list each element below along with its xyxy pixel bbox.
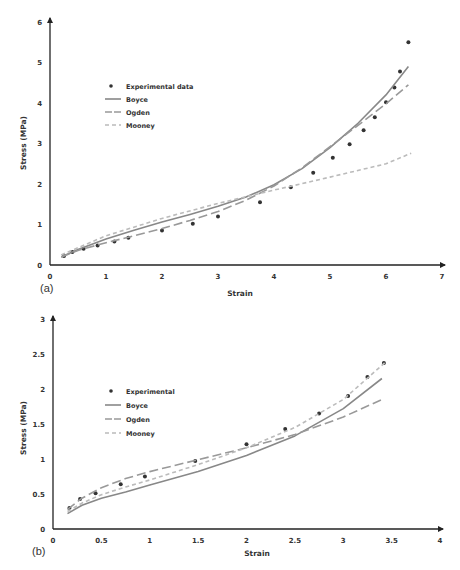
figure: 012345670123456StrainStress (MPa)(a)Expe… [0, 0, 460, 570]
data-point [311, 171, 315, 175]
x-tick-label: 4 [438, 537, 443, 545]
data-point [406, 40, 410, 44]
legend-marker-icon [109, 389, 113, 393]
data-point [143, 475, 147, 479]
y-tick-label: 5 [37, 59, 42, 67]
series-ogden [68, 400, 382, 510]
x-tick-label: 1 [147, 537, 152, 545]
data-point [191, 222, 195, 226]
y-tick-label: 3 [40, 316, 45, 324]
x-axis-label: Strain [227, 289, 253, 298]
legend-label: Mooney [126, 430, 155, 438]
x-tick-label: 2 [244, 537, 249, 545]
y-axis-label: Stress (MPa) [19, 401, 28, 455]
x-tick-label: 4 [272, 273, 277, 281]
data-point [216, 214, 220, 218]
legend-label: Ogden [126, 416, 150, 424]
data-point [258, 200, 262, 204]
x-tick-label: 1 [104, 273, 109, 281]
series-boyce [68, 379, 382, 514]
y-tick-label: 3 [37, 140, 42, 148]
x-tick-label: 0.5 [95, 537, 108, 545]
data-point [398, 69, 402, 73]
series-ogden [61, 85, 408, 257]
x-tick-label: 1.5 [192, 537, 205, 545]
chart-a: 012345670123456StrainStress (MPa)(a)Expe… [19, 18, 445, 298]
legend-label: Mooney [126, 122, 155, 130]
series-mooney [68, 361, 387, 512]
x-tick-label: 6 [384, 273, 389, 281]
legend-label: Experimental [126, 388, 175, 396]
data-point [362, 128, 366, 132]
x-tick-label: 0 [48, 273, 53, 281]
y-tick-label: 4 [37, 100, 42, 108]
x-tick-label: 3 [216, 273, 221, 281]
series-boyce [61, 67, 408, 257]
legend-label: Boyce [126, 402, 149, 410]
x-tick-label: 3.5 [385, 537, 398, 545]
y-axis-label: Stress (MPa) [19, 116, 28, 170]
x-axis-label: Strain [244, 549, 270, 558]
legend: Experimental dataBoyceOgdenMooney [105, 83, 193, 130]
legend-marker-icon [109, 84, 113, 88]
legend: ExperimentalBoyceOgdenMooney [105, 388, 175, 438]
data-point [348, 142, 352, 146]
y-tick-label: 1 [40, 456, 45, 464]
y-tick-label: 0 [37, 262, 42, 270]
x-tick-label: 7 [440, 273, 445, 281]
y-tick-label: 0 [40, 526, 45, 534]
x-tick-label: 3 [341, 537, 346, 545]
x-tick-label: 5 [328, 273, 333, 281]
legend-label: Boyce [126, 96, 149, 104]
data-point [119, 482, 123, 486]
data-point [373, 115, 377, 119]
y-tick-label: 2.5 [33, 351, 46, 359]
y-tick-label: 0.5 [33, 491, 46, 499]
chart-b: 00.511.522.533.5400.511.522.53StrainStre… [19, 316, 443, 559]
y-tick-label: 1 [37, 221, 42, 229]
panel-label: (a) [40, 282, 53, 294]
x-tick-label: 0 [51, 537, 56, 545]
y-tick-label: 1.5 [33, 421, 46, 429]
data-point [245, 442, 249, 446]
y-tick-label: 2 [40, 386, 45, 394]
y-tick-label: 2 [37, 181, 42, 189]
panel-label: (b) [32, 545, 45, 557]
legend-label: Ogden [126, 109, 150, 117]
legend-label: Experimental data [126, 83, 193, 91]
x-tick-label: 2.5 [289, 537, 302, 545]
x-tick-label: 2 [160, 273, 165, 281]
y-tick-label: 6 [37, 19, 42, 27]
data-point [331, 156, 335, 160]
